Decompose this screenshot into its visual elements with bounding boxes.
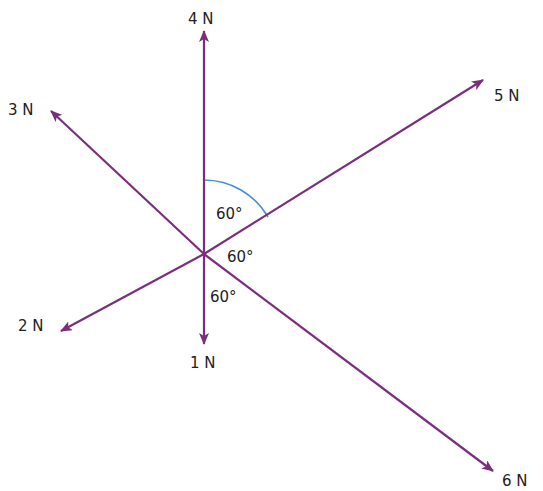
label-4n: 4 N <box>188 10 214 28</box>
force-arrow-3n <box>51 111 204 254</box>
angle-label-top: 60° <box>216 205 243 223</box>
force-diagram: g 4 N 5 N 3 N 2 N 1 N 6 N 60° 60° 60° <box>0 0 543 491</box>
label-3n: 3 N <box>8 101 34 119</box>
title-fragment: g <box>322 0 332 1</box>
force-arrow-5n <box>204 80 483 254</box>
label-1n: 1 N <box>190 354 216 372</box>
angle-label-right: 60° <box>227 248 254 266</box>
label-6n: 6 N <box>502 472 528 490</box>
label-2n: 2 N <box>18 317 44 335</box>
label-5n: 5 N <box>494 87 520 105</box>
angle-label-bottom: 60° <box>210 288 237 306</box>
force-arrow-2n <box>61 254 204 331</box>
force-arrow-6n <box>204 254 493 471</box>
